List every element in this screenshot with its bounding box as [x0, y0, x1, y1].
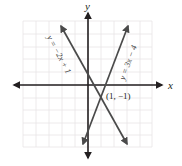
intersection-point-label: (1, −1) [106, 92, 131, 101]
x-axis-label: x [168, 80, 173, 91]
graph-figure: x y y = −2x + 1 y = 3x − 4 (1, −1) [0, 0, 182, 166]
coordinate-plane-svg [0, 0, 182, 166]
y-axis-label: y [85, 1, 90, 12]
